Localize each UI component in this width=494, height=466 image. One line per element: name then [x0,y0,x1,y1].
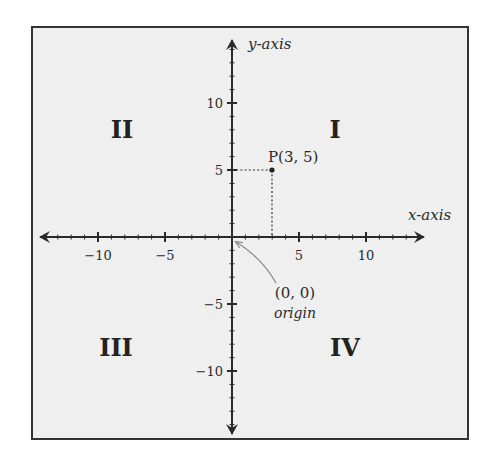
x-tick-label: 5 [295,248,303,263]
y-tick-label: −10 [196,364,223,379]
coordinate-plane-diagram: −10−5510105−5−10 y-axis x-axis II I III … [0,0,494,466]
y-tick-label: 10 [206,96,223,111]
x-axis-label: x-axis [408,206,451,224]
y-axis-label: y-axis [247,35,292,53]
x-tick-label: −10 [84,248,111,263]
origin-name-label: origin [274,305,316,321]
quadrant-label-iii: III [99,333,133,362]
y-tick-label: 5 [215,163,223,178]
point-p-marker [269,167,274,172]
point-p-label: P(3, 5) [268,148,318,166]
quadrant-label-i: I [329,115,340,144]
x-tick-label: 10 [358,248,375,263]
origin-coords-label: (0, 0) [275,284,315,302]
quadrant-label-iv: IV [330,333,360,362]
quadrant-label-ii: II [111,115,133,144]
y-tick-label: −5 [204,297,223,312]
x-tick-label: −5 [155,248,174,263]
